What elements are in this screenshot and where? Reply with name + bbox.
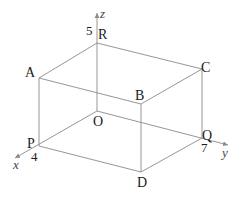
- edge-PD: [39, 146, 141, 172]
- y-axis-label: y: [220, 145, 228, 160]
- vertex-label-C: C: [201, 60, 210, 75]
- vertex-label-B: B: [135, 88, 144, 103]
- edge-CB: [141, 69, 202, 104]
- edge-QD: [141, 138, 202, 172]
- vertex-label-Q: Q: [202, 128, 212, 143]
- edge-RA: [39, 43, 97, 78]
- edge-AB: [39, 78, 141, 104]
- vertex-label-O: O: [93, 114, 103, 129]
- z-axis-label: z: [99, 6, 105, 21]
- vertex-label-R: R: [98, 27, 108, 42]
- x-axis-label: x: [12, 157, 19, 172]
- vertex-label-P: P: [27, 136, 35, 151]
- z-tick-5: 5: [86, 23, 93, 38]
- vertex-label-D: D: [137, 175, 147, 190]
- vertex-label-A: A: [25, 65, 36, 80]
- cuboid-diagram: z x y 5 4 7 R A C B O P Q D: [0, 0, 236, 198]
- edge-RC: [97, 43, 202, 69]
- x-tick-4: 4: [31, 149, 38, 164]
